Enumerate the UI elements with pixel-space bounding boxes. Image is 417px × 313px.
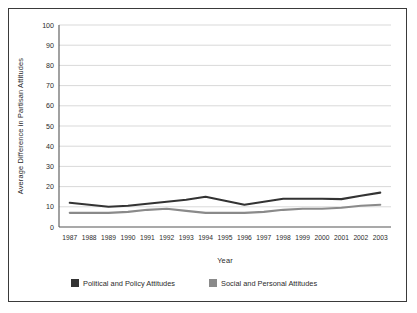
x-axis-tick-label: 1988 (82, 234, 97, 241)
x-axis-tick-label: 1990 (121, 234, 136, 241)
x-axis-tick-label: 1991 (140, 234, 155, 241)
y-axis-tick-label: 100 (42, 22, 54, 30)
x-axis-tick-label: 1997 (256, 234, 271, 241)
y-axis-tick-label: 80 (46, 62, 54, 70)
x-axis-tick-group: 1987198819891990199119921993199419951996… (62, 234, 388, 241)
x-axis-tick-label: 1994 (198, 234, 213, 241)
x-axis-tick-label: 2003 (373, 234, 388, 241)
x-axis-tick-label: 1999 (295, 234, 310, 241)
legend: Political and Policy AttitudesSocial and… (71, 279, 317, 288)
y-axis-tick-label: 50 (46, 123, 54, 131)
series-line (70, 193, 381, 207)
figure-container: 0102030405060708090100 19871988198919901… (0, 0, 417, 313)
y-axis-tick-label: 0 (50, 224, 54, 232)
x-axis-tick-label: 1992 (159, 234, 174, 241)
y-axis-tick-label: 10 (46, 203, 54, 211)
x-axis-tick-label: 1998 (276, 234, 291, 241)
x-axis-tick-label: 1989 (101, 234, 116, 241)
gridline-group (59, 25, 391, 207)
x-axis-tick-label: 1987 (62, 234, 77, 241)
y-axis-tick-group: 0102030405060708090100 (42, 22, 54, 232)
y-axis-label: Average Difference in Partisan Attitudes (16, 58, 25, 195)
y-axis-tick-label: 40 (46, 143, 54, 151)
y-axis-tick-label: 90 (46, 42, 54, 50)
legend-swatch (209, 279, 217, 287)
data-series-group (70, 193, 381, 213)
y-axis-tick-label: 70 (46, 82, 54, 90)
legend-swatch (71, 279, 79, 287)
x-axis-tick-label: 2002 (353, 234, 368, 241)
x-axis-tick-label: 1993 (179, 234, 194, 241)
y-axis-tick-label: 20 (46, 183, 54, 191)
chart-frame: 0102030405060708090100 19871988198919901… (8, 8, 407, 302)
x-axis-label: Year (217, 256, 233, 265)
y-axis-tick-label: 60 (46, 102, 54, 110)
legend-label: Social and Personal Attitudes (221, 279, 317, 288)
legend-label: Political and Policy Attitudes (83, 279, 175, 288)
x-axis-tick-label: 1996 (237, 234, 252, 241)
x-axis-tick-label: 1995 (218, 234, 233, 241)
x-axis-tick-label: 2001 (334, 234, 349, 241)
x-axis-tick-label: 2000 (315, 234, 330, 241)
y-axis-tick-label: 30 (46, 163, 54, 171)
line-chart: 0102030405060708090100 19871988198919901… (9, 9, 406, 301)
